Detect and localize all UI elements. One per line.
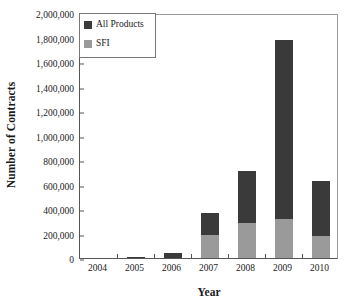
bar-segment-all-products-2006 [164,253,182,258]
y-tick-mark [80,186,84,187]
x-tick-mark [117,254,118,258]
y-tick-mark [80,113,84,114]
y-tick-label: 200,000 [43,231,80,241]
x-tick-mark [191,254,192,258]
x-tick-label-2008: 2008 [236,263,255,273]
y-tick-label: 600,000 [43,182,80,192]
y-tick-mark [80,64,84,65]
bar-segment-all-products-2005 [127,257,145,258]
y-tick-mark [80,211,84,212]
y-tick-mark [80,260,84,261]
bar-segment-all-products-2007 [201,213,219,235]
x-tick-label-2007: 2007 [199,263,218,273]
bar-segment-sfi-2008 [238,223,256,258]
y-axis-title-text: Number of Contracts [5,82,17,188]
y-tick-label: 2,000,000 [36,10,80,20]
x-tick-mark [154,254,155,258]
x-tick-label-2005: 2005 [125,263,144,273]
chart-legend: All ProductsSFI [79,13,156,58]
legend-swatch-icon [84,21,92,29]
x-tick-label-2010: 2010 [310,263,329,273]
x-tick-label-2009: 2009 [273,263,292,273]
bar-2008 [238,171,256,258]
y-tick-label: 800,000 [43,157,80,167]
x-axis-title: Year [79,286,339,298]
bar-segment-all-products-2009 [275,40,293,219]
y-tick-mark [80,88,84,89]
bar-segment-all-products-2010 [312,181,330,236]
bar-segment-sfi-2009 [275,219,293,258]
y-tick-label: 1,200,000 [36,108,80,118]
y-tick-mark [80,137,84,138]
x-tick-mark [302,254,303,258]
legend-swatch-icon [84,40,92,48]
bar-2005 [127,257,145,258]
y-tick-label: 400,000 [43,206,80,216]
y-axis-title: Number of Contracts [0,0,22,270]
bar-segment-sfi-2010 [312,236,330,258]
y-tick-label: 1,800,000 [36,35,80,45]
y-tick-label: 1,400,000 [36,84,80,94]
x-tick-mark [265,254,266,258]
y-tick-label: 1,600,000 [36,59,80,69]
y-tick-label: 0 [69,255,80,265]
bar-segment-sfi-2007 [201,235,219,258]
bar-chart-figure: Number of Contracts 0200,000400,000600,0… [0,0,350,305]
bar-2006 [164,253,182,258]
y-tick-mark [80,235,84,236]
legend-label: SFI [96,39,110,49]
bar-2007 [201,213,219,258]
bar-2009 [275,40,293,258]
x-tick-mark [228,254,229,258]
x-tick-label-2004: 2004 [88,263,107,273]
legend-item-all-products: All Products [84,19,151,31]
y-tick-label: 1,000,000 [36,133,80,143]
bar-2010 [312,181,330,258]
legend-label: All Products [96,20,144,30]
bar-segment-all-products-2008 [238,171,256,223]
y-tick-mark [80,162,84,163]
x-tick-label-2006: 2006 [162,263,181,273]
legend-item-sfi: SFI [84,38,151,50]
